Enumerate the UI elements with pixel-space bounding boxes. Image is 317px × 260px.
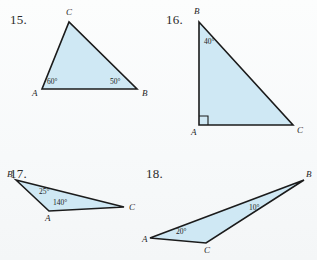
angle-label-b-18: 10° — [249, 203, 260, 212]
vertex-label-c-18: C — [204, 245, 211, 255]
angle-label-a-18: 20° — [176, 227, 187, 236]
problem-18-figure: A B C 20° 10° — [0, 0, 317, 260]
vertex-label-a-18: A — [141, 234, 148, 244]
vertex-label-b-18: B — [306, 169, 312, 179]
textbook-exercise-page: 15. A B C 60° 50° 16. B A C 40° 17. B A … — [0, 0, 317, 260]
triangle-shape-18 — [150, 180, 304, 243]
